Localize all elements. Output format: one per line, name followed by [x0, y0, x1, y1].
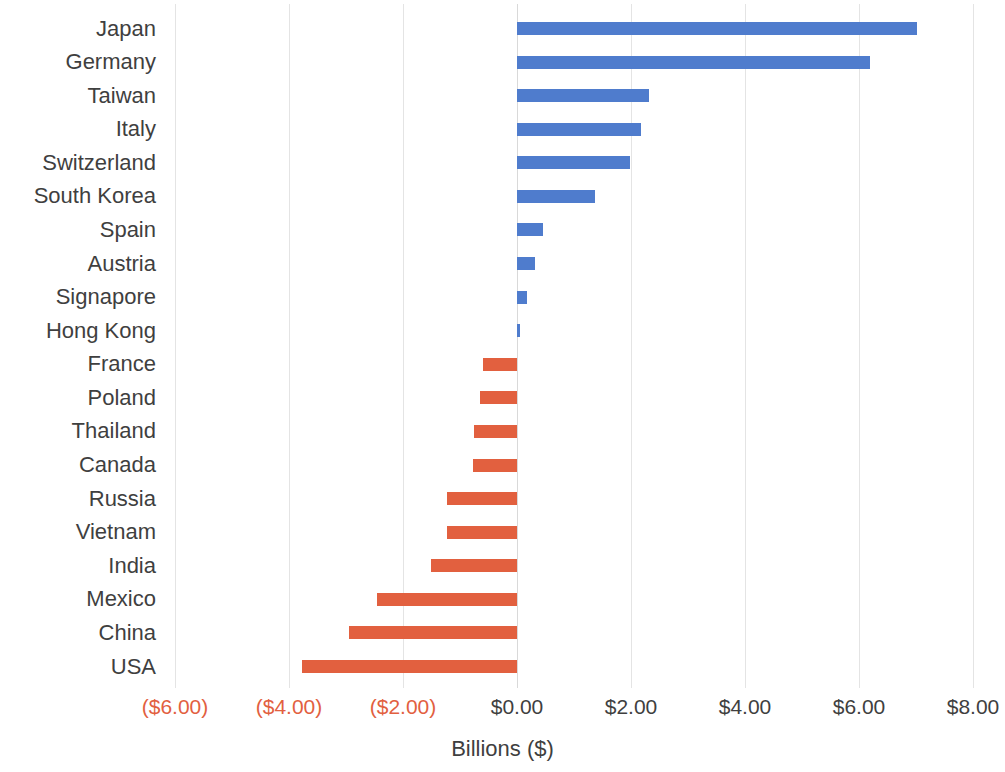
category-label-vietnam: Vietnam: [76, 521, 156, 543]
category-label-signapore: Signapore: [56, 286, 156, 308]
bar-south-korea[interactable]: [517, 190, 595, 203]
plot-area: JapanGermanyTaiwanItalySwitzerlandSouth …: [0, 0, 1005, 688]
x-tick-label: $2.00: [605, 695, 658, 719]
bar-india[interactable]: [431, 559, 517, 572]
category-label-india: India: [108, 555, 156, 577]
x-tick-label: $0.00: [491, 695, 544, 719]
category-label-spain: Spain: [100, 219, 156, 241]
category-label-germany: Germany: [66, 51, 156, 73]
bar-france[interactable]: [483, 358, 517, 371]
bar-austria[interactable]: [517, 257, 535, 270]
category-label-japan: Japan: [96, 18, 156, 40]
bar-germany[interactable]: [517, 56, 870, 69]
gridline: [175, 4, 176, 688]
bar-usa[interactable]: [302, 660, 517, 673]
bar-vietnam[interactable]: [447, 526, 517, 539]
bar-china[interactable]: [349, 626, 517, 639]
x-tick-label: $4.00: [719, 695, 772, 719]
gridline: [631, 4, 632, 688]
bar-switzerland[interactable]: [517, 156, 630, 169]
x-tick-label: $8.00: [947, 695, 1000, 719]
x-axis-title: Billions ($): [0, 736, 1005, 762]
bar-japan[interactable]: [517, 22, 917, 35]
gridline: [973, 4, 974, 688]
category-label-hong-kong: Hong Kong: [46, 320, 156, 342]
x-tick-label: ($2.00): [370, 695, 437, 719]
x-tick-label: $6.00: [833, 695, 886, 719]
category-label-usa: USA: [111, 656, 156, 678]
bar-poland[interactable]: [480, 391, 517, 404]
x-tick-label: ($4.00): [256, 695, 323, 719]
category-label-france: France: [88, 353, 156, 375]
category-label-switzerland: Switzerland: [42, 152, 156, 174]
gridline: [859, 4, 860, 688]
category-label-canada: Canada: [79, 454, 156, 476]
bar-spain[interactable]: [517, 223, 543, 236]
category-label-thailand: Thailand: [72, 420, 156, 442]
category-label-russia: Russia: [89, 488, 156, 510]
zero-gridline: [517, 4, 518, 688]
gridline: [745, 4, 746, 688]
gridline: [403, 4, 404, 688]
bar-russia[interactable]: [447, 492, 517, 505]
category-label-mexico: Mexico: [86, 588, 156, 610]
category-label-italy: Italy: [116, 118, 156, 140]
category-label-austria: Austria: [88, 253, 156, 275]
category-label-south-korea: South Korea: [34, 185, 156, 207]
bar-canada[interactable]: [473, 459, 517, 472]
category-label-poland: Poland: [87, 387, 156, 409]
trade-balance-bar-chart: JapanGermanyTaiwanItalySwitzerlandSouth …: [0, 0, 1005, 772]
bar-hong-kong[interactable]: [517, 324, 520, 337]
bar-taiwan[interactable]: [517, 89, 649, 102]
bar-italy[interactable]: [517, 123, 641, 136]
category-label-china: China: [99, 622, 156, 644]
category-label-taiwan: Taiwan: [88, 85, 156, 107]
x-tick-label: ($6.00): [142, 695, 209, 719]
bar-thailand[interactable]: [474, 425, 517, 438]
gridline: [289, 4, 290, 688]
bar-mexico[interactable]: [377, 593, 517, 606]
bar-signapore[interactable]: [517, 291, 527, 304]
